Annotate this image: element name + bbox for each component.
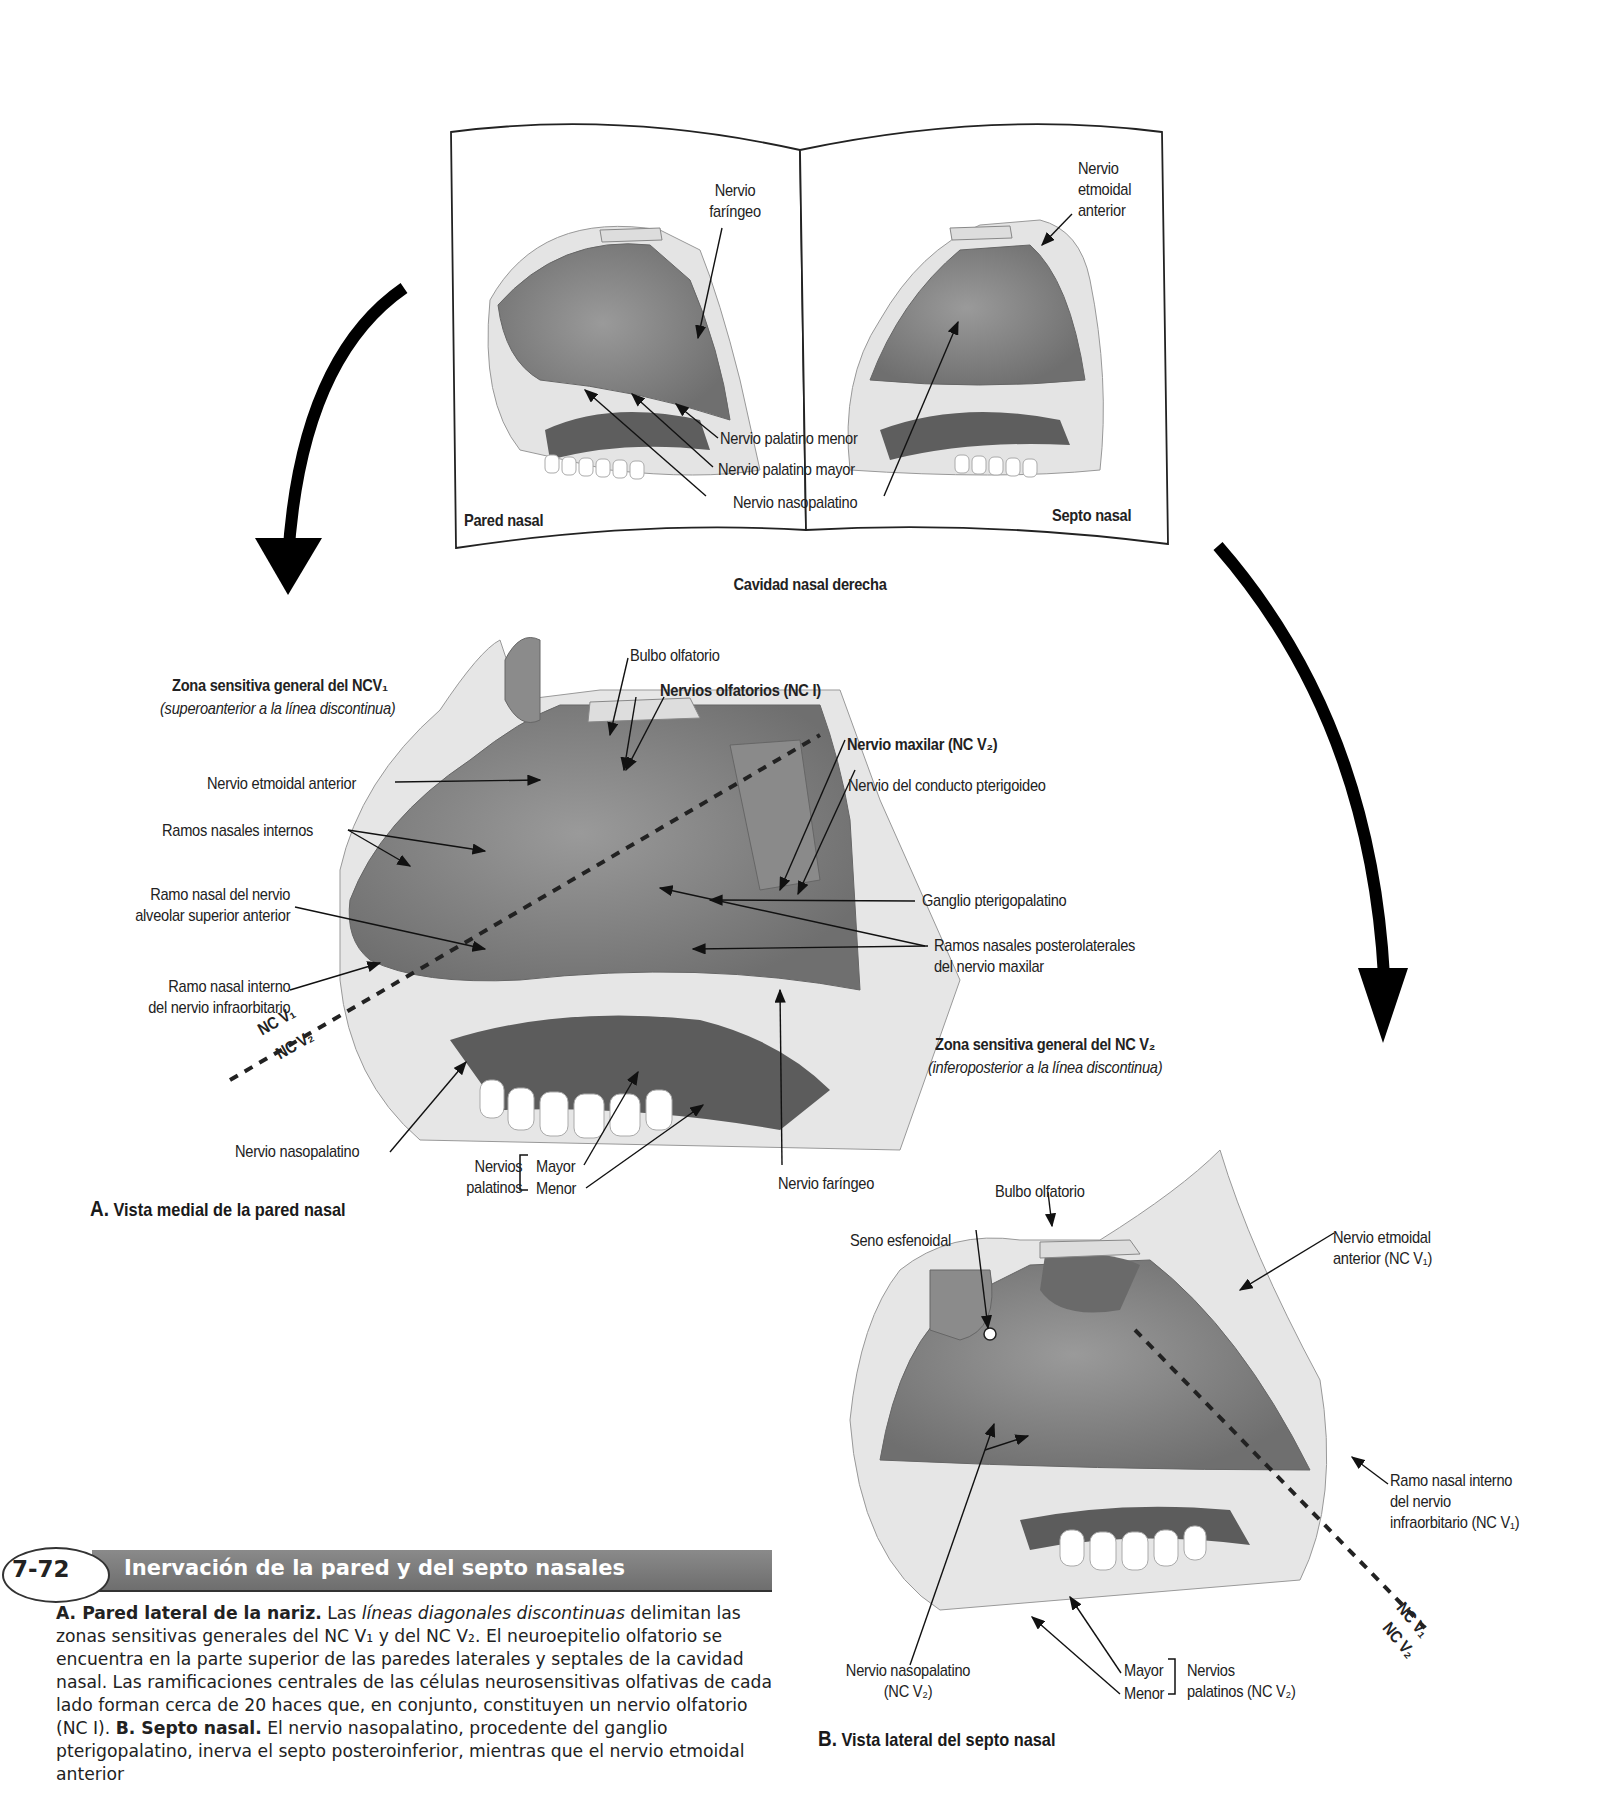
panel-b-illustration — [850, 1150, 1327, 1610]
label-menor-b: Menor — [1124, 1683, 1164, 1704]
label-line: palatinos — [466, 1177, 522, 1198]
label-bulbo-olfatorio-b: Bulbo olfatorio — [995, 1181, 1085, 1202]
label-line: Nervio — [696, 180, 773, 201]
label-line: Ramo nasal interno — [148, 976, 290, 997]
label-line: faríngeo — [696, 201, 773, 222]
label-ramo-alveolar: Ramo nasal del nervio alveolar superior … — [135, 884, 290, 926]
label-ramos-nasales-internos: Ramos nasales internos — [162, 820, 313, 841]
label-nasopalatino-overview: Nervio nasopalatino — [733, 492, 857, 513]
panel-a-title: A. Vista medial de la pared nasal — [90, 1196, 346, 1222]
panel-title-text: Vista lateral del septo nasal — [841, 1729, 1055, 1750]
label-bulbo-olfatorio-a: Bulbo olfatorio — [630, 645, 720, 666]
panel-a-illustration — [340, 638, 960, 1151]
label-conducto-pterigoideo: Nervio del conducto pterigoideo — [848, 775, 1046, 796]
label-nervios-palatinos-b: Nervios palatinos (NC V₂) — [1187, 1660, 1296, 1702]
label-palatino-menor-overview: Nervio palatino menor — [720, 428, 858, 449]
caption-text-span: Las — [322, 1603, 362, 1623]
figure-number: 7-72 — [12, 1556, 70, 1582]
label-ganglio-pterigopalatino: Ganglio pterigopalatino — [922, 890, 1066, 911]
caption-b-heading: B. Septo nasal. — [116, 1718, 262, 1738]
label-nasopalatino-b: Nervio nasopalatino (NC V₂) — [831, 1660, 986, 1702]
panel-letter: A. — [90, 1196, 109, 1221]
label-mayor-b: Mayor — [1124, 1660, 1163, 1681]
label-nervio-faringeo-overview: Nervio faríngeo — [696, 180, 773, 222]
label-line: Ramo nasal del nervio — [135, 884, 290, 905]
label-line: anterior — [1078, 200, 1131, 221]
panel-b-title: B. Vista lateral del septo nasal — [818, 1726, 1055, 1752]
label-line: infraorbitario (NC V₁) — [1390, 1512, 1519, 1533]
label-line: (NC V₂) — [831, 1681, 986, 1702]
label-menor-a: Menor — [536, 1178, 576, 1199]
label-line: anterior (NC V₁) — [1333, 1248, 1432, 1269]
overview-title: Cavidad nasal derecha — [707, 574, 913, 595]
label-ramo-infraorbitario-a: Ramo nasal interno del nervio infraorbit… — [148, 976, 290, 1018]
label-line: Nervios — [466, 1156, 522, 1177]
caption-a-heading: A. Pared lateral de la nariz. — [56, 1603, 322, 1623]
label-line: Nervios — [1187, 1660, 1296, 1681]
label-nervio-maxilar: Nervio maxilar (NC V₂) — [847, 734, 997, 755]
label-faringeo-a: Nervio faríngeo — [778, 1173, 874, 1194]
curved-arrow-right — [1218, 546, 1408, 1043]
zone-v2-subtitle: (inferoposterior a la línea discontinua) — [928, 1057, 1162, 1078]
label-nervios-olfatorios: Nervios olfatorios (NC I) — [660, 680, 821, 701]
label-line: Nervio nasopalatino — [831, 1660, 986, 1681]
label-ramos-posterolaterales: Ramos nasales posterolaterales del nervi… — [934, 935, 1135, 977]
label-etmoidal-anterior-a: Nervio etmoidal anterior — [207, 773, 356, 794]
label-line: Ramos nasales posterolaterales — [934, 935, 1135, 956]
zone-v1-title: Zona sensitiva general del NCV₁ — [172, 675, 388, 696]
label-mayor-a: Mayor — [536, 1156, 575, 1177]
zone-v2-title: Zona sensitiva general del NC V₂ — [935, 1034, 1155, 1055]
panel-letter: B. — [818, 1726, 837, 1751]
label-palatino-mayor-overview: Nervio palatino mayor — [718, 459, 855, 480]
label-line: alveolar superior anterior — [135, 905, 290, 926]
label-seno-esfenoidal: Seno esfenoidal — [850, 1230, 951, 1251]
curved-arrow-left — [255, 288, 404, 595]
right-page-label: Septo nasal — [1052, 505, 1131, 526]
label-nasopalatino-a: Nervio nasopalatino — [235, 1141, 359, 1162]
label-line: del nervio maxilar — [934, 956, 1135, 977]
label-ramo-infraorbitario-b: Ramo nasal interno del nervio infraorbit… — [1390, 1470, 1519, 1533]
label-line: Nervio etmoidal — [1333, 1227, 1432, 1248]
label-line: Ramo nasal interno — [1390, 1470, 1519, 1491]
zone-v1-subtitle: (superoanterior a la línea discontinua) — [160, 698, 395, 719]
label-etmoidal-anterior-b: Nervio etmoidal anterior (NC V₁) — [1333, 1227, 1432, 1269]
label-line: del nervio — [1390, 1491, 1519, 1512]
label-line: palatinos (NC V₂) — [1187, 1681, 1296, 1702]
panel-title-text: Vista medial de la pared nasal — [113, 1199, 345, 1220]
figure-caption: A. Pared lateral de la nariz. Las líneas… — [56, 1602, 776, 1786]
left-page-label: Pared nasal — [464, 510, 543, 531]
label-line: etmoidal — [1078, 179, 1131, 200]
figure-title: Inervación de la pared y del septo nasal… — [124, 1556, 625, 1580]
label-line: Nervio — [1078, 158, 1131, 179]
label-etmoidal-anterior-overview: Nervio etmoidal anterior — [1078, 158, 1131, 221]
caption-italic: líneas diagonales discontinuas — [362, 1603, 625, 1623]
label-nervios-palatinos-a: Nervios palatinos — [466, 1156, 522, 1198]
